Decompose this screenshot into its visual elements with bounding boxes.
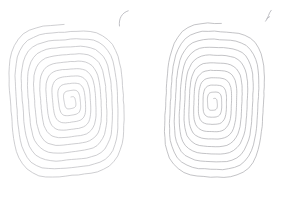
- drawing-canvas: [0, 0, 285, 200]
- drawing-surface: [0, 0, 285, 200]
- left-spiral: [9, 24, 124, 177]
- left-spiral-group: [9, 24, 124, 177]
- left-stray-mark-icon: [119, 11, 128, 26]
- right-spiral: [164, 23, 264, 178]
- stray-marks-group: [119, 10, 271, 26]
- right-spiral-group: [164, 23, 264, 178]
- right-stray-mark-icon: [266, 10, 272, 21]
